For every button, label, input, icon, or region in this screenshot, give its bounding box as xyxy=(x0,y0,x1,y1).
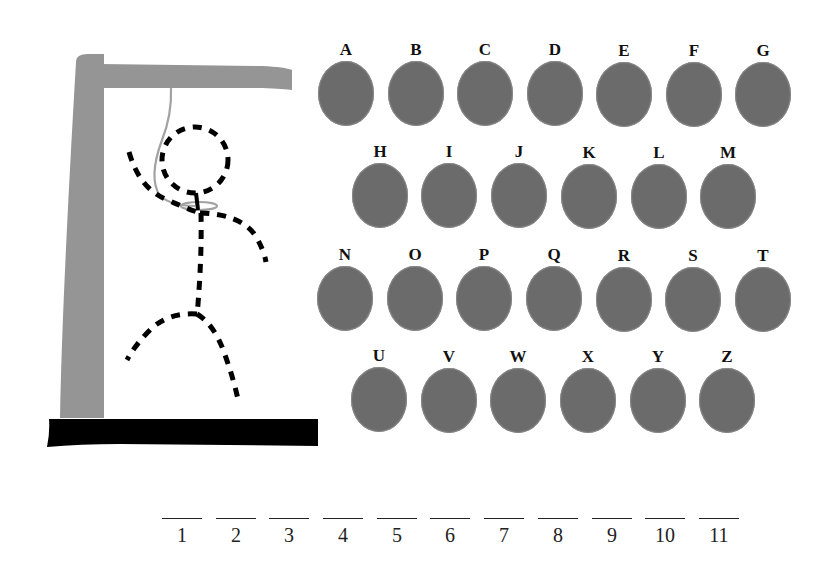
key-t[interactable]: T xyxy=(735,267,791,332)
key-label: W xyxy=(490,348,546,366)
slot-number: 6 xyxy=(430,524,470,547)
key-label: T xyxy=(735,247,791,265)
slot-number: 2 xyxy=(216,524,256,547)
key-p[interactable]: P xyxy=(456,266,512,331)
key-disc xyxy=(490,368,546,433)
slot-line xyxy=(162,518,202,519)
key-disc xyxy=(560,368,616,433)
slot-number: 5 xyxy=(377,524,417,547)
key-b[interactable]: B xyxy=(388,61,444,126)
word-slot-9: 9 xyxy=(592,514,632,548)
slot-line xyxy=(645,518,685,519)
key-disc xyxy=(735,267,791,332)
key-label: Y xyxy=(630,348,686,366)
slot-number: 10 xyxy=(645,524,685,547)
key-disc xyxy=(630,368,686,433)
slot-number: 4 xyxy=(323,524,363,547)
figure-neck xyxy=(196,193,198,210)
key-disc xyxy=(456,266,512,331)
word-slot-8: 8 xyxy=(538,514,578,548)
slot-number: 11 xyxy=(699,524,739,547)
word-slot-3: 3 xyxy=(269,514,309,548)
figure-body xyxy=(197,213,201,316)
key-q[interactable]: Q xyxy=(526,266,582,331)
key-disc xyxy=(735,62,791,127)
key-disc xyxy=(352,163,408,228)
key-label: C xyxy=(457,41,513,59)
key-label: V xyxy=(421,348,477,366)
key-disc xyxy=(596,267,652,332)
key-disc xyxy=(317,266,373,331)
key-n[interactable]: N xyxy=(317,266,373,331)
key-label: A xyxy=(318,41,374,59)
word-slot-4: 4 xyxy=(323,514,363,548)
gallows-base xyxy=(47,419,318,447)
key-disc xyxy=(596,62,652,127)
key-x[interactable]: X xyxy=(560,368,616,433)
key-i[interactable]: I xyxy=(421,163,477,228)
key-disc xyxy=(666,62,722,127)
key-disc xyxy=(387,266,443,331)
slot-number: 8 xyxy=(538,524,578,547)
figure-head xyxy=(162,127,228,193)
key-disc xyxy=(318,61,374,126)
figure-left-leg xyxy=(127,314,197,360)
key-l[interactable]: L xyxy=(631,164,687,229)
key-v[interactable]: V xyxy=(421,368,477,433)
key-o[interactable]: O xyxy=(387,266,443,331)
slot-line xyxy=(323,518,363,519)
slot-number: 1 xyxy=(162,524,202,547)
slot-line xyxy=(216,518,256,519)
key-label: F xyxy=(666,42,722,60)
key-e[interactable]: E xyxy=(596,62,652,127)
word-slot-11: 11 xyxy=(699,514,739,548)
key-d[interactable]: D xyxy=(527,61,583,126)
key-label: R xyxy=(596,247,652,265)
key-label: K xyxy=(561,144,617,162)
word-slot-7: 7 xyxy=(484,514,524,548)
key-a[interactable]: A xyxy=(318,61,374,126)
slot-line xyxy=(377,518,417,519)
key-u[interactable]: U xyxy=(351,367,407,432)
key-label: Z xyxy=(699,348,755,366)
key-y[interactable]: Y xyxy=(630,368,686,433)
key-h[interactable]: H xyxy=(352,163,408,228)
gallows-beam xyxy=(100,64,292,90)
word-slot-1: 1 xyxy=(162,514,202,548)
gallows-illustration xyxy=(0,0,340,470)
key-g[interactable]: G xyxy=(735,62,791,127)
key-w[interactable]: W xyxy=(490,368,546,433)
slot-number: 9 xyxy=(592,524,632,547)
key-label: M xyxy=(700,144,756,162)
word-slot-5: 5 xyxy=(377,514,417,548)
key-r[interactable]: R xyxy=(596,267,652,332)
key-s[interactable]: S xyxy=(665,267,721,332)
key-j[interactable]: J xyxy=(491,163,547,228)
key-disc xyxy=(561,164,617,229)
key-disc xyxy=(699,368,755,433)
key-label: U xyxy=(351,347,407,365)
key-label: E xyxy=(596,42,652,60)
key-disc xyxy=(457,61,513,126)
key-f[interactable]: F xyxy=(666,62,722,127)
key-label: G xyxy=(735,42,791,60)
key-m[interactable]: M xyxy=(700,164,756,229)
key-disc xyxy=(631,164,687,229)
word-slot-6: 6 xyxy=(430,514,470,548)
slot-line xyxy=(484,518,524,519)
key-label: J xyxy=(491,143,547,161)
figure-right-arm xyxy=(200,213,266,262)
slot-line xyxy=(430,518,470,519)
key-disc xyxy=(351,367,407,432)
key-z[interactable]: Z xyxy=(699,368,755,433)
figure-right-leg xyxy=(197,314,239,404)
key-k[interactable]: K xyxy=(561,164,617,229)
key-disc xyxy=(526,266,582,331)
key-label: L xyxy=(631,144,687,162)
hangman-game: A B C D E F G H I J K L M N O P Q R S T … xyxy=(0,0,833,586)
key-label: B xyxy=(388,41,444,59)
key-label: N xyxy=(317,246,373,264)
key-label: D xyxy=(527,41,583,59)
key-c[interactable]: C xyxy=(457,61,513,126)
key-disc xyxy=(491,163,547,228)
